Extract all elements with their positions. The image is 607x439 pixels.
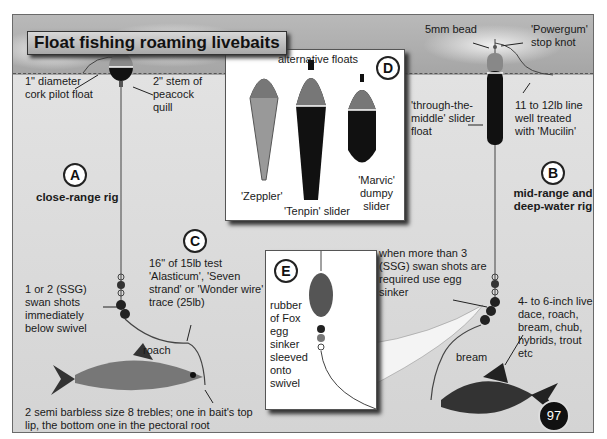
slider-float-icon <box>487 45 503 145</box>
float-tenpin-label: 'Tenpin' slider <box>284 205 350 218</box>
bead-label: 5mm bead <box>425 23 477 36</box>
fox-egg-sinker-label: rubber of Fox egg sinker sleeved onto sw… <box>270 299 310 390</box>
marker-b: B <box>541 161 565 185</box>
roach-label: roach <box>143 344 171 357</box>
alternative-floats-panel: alternative floats D 'Zeppler' 'Tenpin' … <box>225 49 405 221</box>
egg-sinker-panel: E rubber of Fox egg sinker sleeved onto … <box>265 250 377 410</box>
bream-label: bream <box>456 351 487 364</box>
slider-float-label: 'through-the-middle' slider float <box>411 99 476 138</box>
treble-hooks-label: 2 semi barbless size 8 trebles; one in b… <box>25 406 255 432</box>
marvic-float-icon <box>348 74 376 163</box>
powergum-stop-knot-label: 'Powergum' stop knot <box>531 23 591 49</box>
float-marvic-label: 'Marvic' dumpy slider <box>349 174 404 213</box>
line-mucilin-label: 11 to 12lb line well treated with 'Mucil… <box>515 99 593 138</box>
marker-c: C <box>183 229 207 253</box>
rig-b-heading: mid-range and deep-water rig <box>513 187 593 213</box>
float-zeppler-label: 'Zeppler' <box>241 190 283 203</box>
cork-float-label: 1" diameter cork pilot float <box>25 75 95 101</box>
marker-a: A <box>63 163 87 187</box>
wire-trace-label: 16" of 15lb test 'Alasticum', 'Seven str… <box>149 257 274 309</box>
marker-e: E <box>274 259 298 283</box>
page-number-badge: 97 <box>538 400 570 432</box>
egg-sinker-note: when more than 3 (SSG) swan shots are re… <box>379 247 489 299</box>
marker-d: D <box>376 56 400 80</box>
tenpin-float-icon <box>296 60 326 200</box>
roach-fish-icon <box>51 343 203 395</box>
rig-a-heading: close-range rig <box>36 191 118 204</box>
live-baits-label: 4- to 6-inch live dace, roach, bream, ch… <box>518 295 593 360</box>
swan-shots-label: 1 or 2 (SSG) swan shots immediately belo… <box>25 283 100 335</box>
diagram-frame: Float fishing roaming livebaits 1" diame… <box>12 14 594 433</box>
zeppler-float-icon <box>250 79 278 180</box>
page-title: Float fishing roaming livebaits <box>27 31 287 55</box>
alternative-floats-heading: alternative floats <box>278 53 358 66</box>
quill-stem-label: 2" stem of peacock quill <box>153 75 213 114</box>
